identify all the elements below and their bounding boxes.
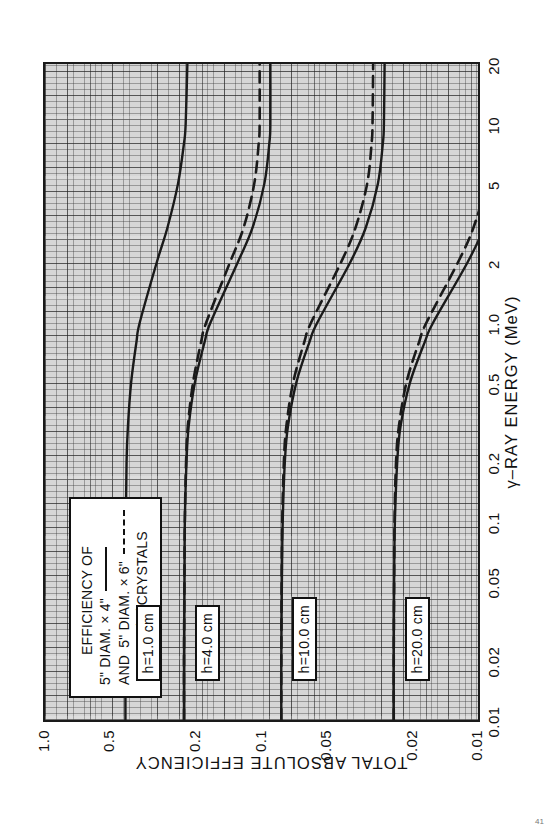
legend-and-prefix: AND bbox=[115, 655, 133, 685]
y-axis-title: TOTAL ABSOLUTE EFFICIENCY bbox=[121, 753, 421, 772]
legend-entry-4in: 5" DIAM. × 4" bbox=[96, 510, 114, 685]
curve-callout-label: h=20.0 cm bbox=[405, 597, 430, 681]
x-tick-label: 0.1 bbox=[485, 512, 502, 534]
figure-landscape-plate: 0.010.020.050.10.20.51.0251020 1.00.50.2… bbox=[25, 34, 525, 794]
y-tick-label: 1.0 bbox=[35, 730, 52, 774]
x-tick-label: 20 bbox=[485, 57, 502, 75]
curve-callout-label: h=1.0 cm bbox=[136, 605, 161, 681]
legend-entry-6in-label: 5" DIAM. × 6" bbox=[115, 561, 133, 648]
x-tick-label: 0.5 bbox=[485, 373, 502, 395]
curve-callout-label: h=10.0 cm bbox=[292, 597, 317, 681]
x-tick-label: 0.2 bbox=[485, 452, 502, 474]
x-tick-label: 1.0 bbox=[485, 314, 502, 336]
legend-title: EFFICIENCY OF bbox=[78, 510, 96, 655]
curve-callout-label: h=4.0 cm bbox=[195, 605, 220, 681]
legend-entry-4in-label: 5" DIAM. × 4" bbox=[96, 598, 114, 685]
x-tick-label: 0.01 bbox=[485, 707, 502, 738]
x-tick-label: 0.05 bbox=[485, 568, 502, 599]
legend-line-solid-icon bbox=[105, 547, 107, 591]
y-tick-label: 0.01 bbox=[468, 730, 485, 774]
page-folio: 41 bbox=[535, 817, 544, 826]
x-tick-label: 5 bbox=[485, 181, 502, 190]
y-tick-label: 0.5 bbox=[100, 730, 117, 774]
x-tick-label: 2 bbox=[485, 260, 502, 269]
legend-entry-6in: AND 5" DIAM. × 6" bbox=[115, 510, 133, 685]
x-tick-label: 10 bbox=[485, 117, 502, 135]
legend-line-dashed-icon bbox=[123, 510, 125, 554]
x-axis-title: γ–RAY ENERGY (MeV) bbox=[502, 295, 521, 488]
x-tick-label: 0.02 bbox=[485, 647, 502, 678]
